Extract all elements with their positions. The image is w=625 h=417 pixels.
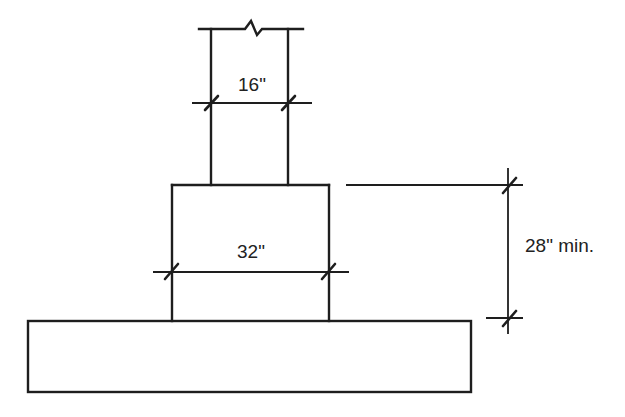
footing (28, 321, 471, 392)
column-width-label: 16" (238, 74, 266, 95)
column (211, 29, 288, 185)
pier-width-dimension: 32" (153, 241, 349, 279)
height-dimension: 28" min. (346, 168, 594, 334)
pier-width-label: 32" (237, 241, 265, 262)
footing-diagram: 16" 32" 28" min. (0, 0, 625, 417)
pier-height-label: 28" min. (525, 235, 594, 256)
